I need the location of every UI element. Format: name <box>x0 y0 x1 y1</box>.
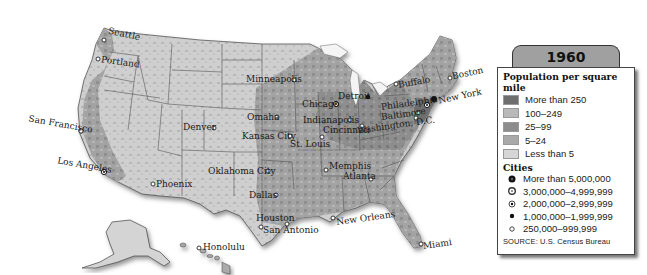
legend-city-row: 2,000,000–2,999,999 <box>507 198 634 211</box>
map-legend: Population per square mile More than 250… <box>497 67 635 255</box>
legend-label: 3,000,000–4,999,999 <box>523 186 613 197</box>
legend-cities-heading: Cities <box>503 162 634 173</box>
legend-density-row: More than 250 <box>503 93 634 107</box>
city-label-denver: Denver <box>183 123 216 132</box>
city-label-indianapolis: Indianapolis <box>303 116 359 125</box>
bullseye-icon <box>507 199 517 209</box>
legend-label: 2,000,000–2,999,999 <box>523 198 613 209</box>
city-label-atlanta: Atlanta <box>343 172 376 181</box>
city-label-memphis: Memphis <box>329 162 371 171</box>
legend-label: More than 250 <box>525 94 586 105</box>
swatch-more-than-250 <box>503 95 519 105</box>
alaska <box>82 220 170 268</box>
legend-label: 25–99 <box>525 121 551 132</box>
city-label-chicago: Chicago <box>302 100 339 109</box>
city-label-san-antonio: San Antonio <box>263 226 319 235</box>
swatch-less-than-5 <box>503 149 519 159</box>
city-label-oklahoma-city: Oklahoma City <box>208 167 276 176</box>
large-filled-dot-icon <box>507 174 517 184</box>
legend-label: 5–24 <box>525 135 546 146</box>
ring-dot-icon <box>507 186 517 196</box>
city-label-houston: Houston <box>256 214 295 223</box>
city-label-phoenix: Phoenix <box>156 180 192 189</box>
swatch-5-24 <box>503 135 519 145</box>
city-label-honolulu: Honolulu <box>203 243 245 252</box>
legend-city-row: 3,000,000–4,999,999 <box>507 185 634 198</box>
city-label-dallas: Dallas <box>249 191 277 200</box>
legend-density-row: 25–99 <box>503 120 634 134</box>
legend-density-row: 100–249 <box>503 107 634 121</box>
city-label-omaha: Omaha <box>247 113 279 122</box>
legend-city-row: 1,000,000–1,999,999 <box>507 210 634 223</box>
city-label-detroit: Detroit <box>338 92 370 101</box>
city-label-minneapolis: Minneapolis <box>246 75 302 84</box>
legend-city-row: 250,000–999,999 <box>507 223 634 236</box>
open-circle-icon <box>507 224 517 234</box>
legend-density-row: Less than 5 <box>503 147 634 161</box>
legend-label: 1,000,000–1,999,999 <box>523 211 613 222</box>
legend-label: 100–249 <box>525 108 562 119</box>
legend-label: More than 5,000,000 <box>523 173 611 184</box>
small-filled-dot-icon <box>507 211 517 221</box>
swatch-25-99 <box>503 122 519 132</box>
legend-city-row: More than 5,000,000 <box>507 173 634 186</box>
city-label-st-louis: St. Louis <box>290 140 330 149</box>
legend-label: Less than 5 <box>525 148 574 159</box>
legend-label: 250,000–999,999 <box>523 223 597 234</box>
swatch-100-249 <box>503 108 519 118</box>
legend-source: SOURCE: U.S. Census Bureau <box>503 237 634 246</box>
legend-year-title: 1960 <box>512 45 620 68</box>
city-label-kansas-city: Kansas City <box>242 132 296 141</box>
legend-population-heading: Population per square mile <box>503 71 634 93</box>
legend-density-row: 5–24 <box>503 134 634 148</box>
